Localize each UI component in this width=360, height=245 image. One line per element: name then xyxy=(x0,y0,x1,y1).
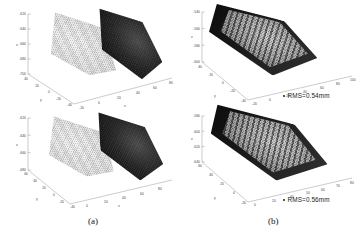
rms-marker-icon xyxy=(283,199,285,201)
ztick-label: -620 xyxy=(19,116,26,120)
xtick-label: 40 xyxy=(122,196,126,200)
xtick-label: 80 xyxy=(336,82,340,86)
xtick-label: 40 xyxy=(136,91,140,95)
axes-3d-bottom-right: -580 -600 -620 -640 60 40 20 0 -20 0 20 … xyxy=(180,108,360,218)
ztick-label: -600 xyxy=(193,130,200,134)
xtick-label: 80 xyxy=(169,81,173,85)
z-axis-label: z xyxy=(191,35,193,39)
xticks-top-left: -20 0 20 40 60 80 xyxy=(79,81,173,110)
ytick-label: -40 xyxy=(241,99,246,103)
ytick-label: 40 xyxy=(33,179,37,183)
zticks-top-left: -620 -640 -660 -680 -700 xyxy=(19,12,30,76)
plot-panel-top-left: -620 -640 -660 -680 -700 40 20 0 -20 -40… xyxy=(0,0,180,115)
y-axis-label: y xyxy=(40,98,42,102)
xtick-label: 0 xyxy=(269,98,271,102)
ztick-label: -560 xyxy=(193,27,200,31)
figure-canvas: -620 -640 -660 -680 -700 40 20 0 -20 -40… xyxy=(0,0,360,245)
ztick-label: -680 xyxy=(19,57,26,61)
xtick-label: 0 xyxy=(98,101,100,105)
yticks-top-left: 40 20 0 -20 -40 xyxy=(24,77,72,107)
ztick-label: -660 xyxy=(19,151,26,155)
ytick-label: -20 xyxy=(59,200,64,204)
xtick-label: 70 xyxy=(336,184,340,188)
ytick-label: -20 xyxy=(241,201,246,205)
ztick-label: -640 xyxy=(19,134,26,138)
ytick-label: 20 xyxy=(220,182,224,186)
ytick-label: -40 xyxy=(70,205,75,209)
ytick-label: -20 xyxy=(56,97,61,101)
xticks-bottom-right: 0 20 40 50 60 70 80 xyxy=(254,181,354,208)
axes-3d-top-left: -620 -640 -660 -680 -700 40 20 0 -20 -40… xyxy=(0,0,180,115)
rms-value: RMS=0.56mm xyxy=(288,196,330,203)
ytick-label: 40 xyxy=(198,65,202,69)
zticks-top-right: -540 -560 -580 -600 xyxy=(193,10,204,64)
ytick-label: 20 xyxy=(35,84,39,88)
z-axis-label: z xyxy=(16,43,18,47)
xtick-label: 50 xyxy=(306,191,310,195)
ytick-label: 20 xyxy=(42,186,46,190)
xtick-label: 0 xyxy=(254,203,256,207)
ztick-label: -580 xyxy=(193,114,200,118)
ztick-label: -620 xyxy=(19,12,26,16)
yticks-top-right: 40 20 0 -20 -40 xyxy=(198,65,246,103)
xtick-label: 60 xyxy=(140,192,144,196)
ztick-label: -580 xyxy=(193,44,200,48)
z-axis-label: z xyxy=(16,143,18,147)
axis-lines-top-right: -540 -560 -580 -600 40 20 0 -20 -40 -20 … xyxy=(180,0,360,115)
axes-3d-top-right: -540 -560 -580 -600 40 20 0 -20 -40 -20 … xyxy=(180,0,360,115)
ztick-label: -660 xyxy=(19,42,26,46)
plot-panel-bottom-left: -620 -640 -660 -680 60 40 20 0 -20 -40 0… xyxy=(0,108,180,218)
axes-3d-bottom-left: -620 -640 -660 -680 60 40 20 0 -20 -40 0… xyxy=(0,108,180,218)
rms-annotation-bottom-right: RMS=0.56mm xyxy=(283,196,330,203)
ztick-label: -620 xyxy=(193,145,200,149)
yticks-bottom-left: 60 40 20 0 -20 -40 xyxy=(24,172,75,209)
ytick-label: 0 xyxy=(233,191,235,195)
ytick-label: 20 xyxy=(209,73,213,77)
ytick-label: -40 xyxy=(67,103,72,107)
xtick-label: 60 xyxy=(321,188,325,192)
ytick-label: 40 xyxy=(209,173,213,177)
xtick-label: 0 xyxy=(86,204,88,208)
zticks-bottom-right: -580 -600 -620 -640 xyxy=(193,114,204,164)
ztick-label: -600 xyxy=(193,60,200,64)
yticks-bottom-right: 60 40 20 0 -20 xyxy=(198,164,246,205)
ytick-label: 60 xyxy=(198,164,202,168)
axis-lines-bottom-right: -580 -600 -620 -640 60 40 20 0 -20 0 20 … xyxy=(180,108,360,218)
ytick-label: 0 xyxy=(53,193,55,197)
ytick-label: 0 xyxy=(222,81,224,85)
xtick-label: 60 xyxy=(320,86,324,90)
axis-lines-bottom-left: -620 -640 -660 -680 60 40 20 0 -20 -40 0… xyxy=(0,108,180,218)
z-axis-label: z xyxy=(191,137,193,141)
ztick-label: -640 xyxy=(19,27,26,31)
y-axis-label: y xyxy=(36,197,38,201)
xtick-label: 80 xyxy=(158,187,162,191)
axis-lines-top-left: -620 -640 -660 -680 -700 40 20 0 -20 -40… xyxy=(0,0,180,115)
ytick-label: -20 xyxy=(230,89,235,93)
x-axis-label: x xyxy=(118,204,120,208)
y-axis-label: y xyxy=(214,94,216,98)
ytick-label: 40 xyxy=(24,77,28,81)
ztick-label: -700 xyxy=(19,72,26,76)
caption-b: (b) xyxy=(268,216,279,226)
ztick-label: -540 xyxy=(193,10,200,14)
xtick-label: 20 xyxy=(104,200,108,204)
ytick-label: 60 xyxy=(24,172,28,176)
rms-value: RMS=0.54mm xyxy=(288,92,330,99)
plot-panel-bottom-right: -580 -600 -620 -640 60 40 20 0 -20 0 20 … xyxy=(180,108,360,218)
xtick-label: 20 xyxy=(117,96,121,100)
xtick-label: 100 xyxy=(350,78,356,82)
xtick-label: 20 xyxy=(272,199,276,203)
y-axis-label: y xyxy=(214,196,216,200)
caption-a: (a) xyxy=(88,216,98,226)
xtick-label: 60 xyxy=(153,86,157,90)
ytick-label: 0 xyxy=(48,90,50,94)
rms-annotation-top-right: RMS=0.54mm xyxy=(283,92,330,99)
zticks-bottom-left: -620 -640 -660 -680 xyxy=(19,116,30,172)
plot-panel-top-right: -540 -560 -580 -600 40 20 0 -20 -40 -20 … xyxy=(180,0,360,115)
xtick-label: 80 xyxy=(350,181,354,185)
rms-marker-icon xyxy=(283,95,285,97)
xtick-label: -20 xyxy=(252,102,257,106)
